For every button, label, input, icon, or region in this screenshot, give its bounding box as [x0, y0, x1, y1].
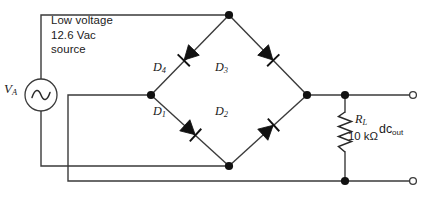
source-description-line3: source — [51, 42, 113, 57]
wire-bridge-left-to-bottom-rail — [68, 95, 345, 181]
diode-label-d1-name: D — [153, 104, 162, 118]
junction-dot-bridge-top — [225, 11, 233, 19]
diode-label-d2: D2 — [215, 104, 228, 121]
junction-dot-bridge-left — [147, 91, 155, 99]
circuit-diagram: Low voltage 12.6 Vac source VA D4 D3 D1 … — [0, 0, 426, 211]
source-label-subscript: A — [12, 88, 17, 97]
wire-source-bottom-to-bridge-bottom — [41, 111, 229, 166]
output-terminal-negative[interactable] — [410, 178, 417, 185]
diode-label-d3-subscript: 3 — [224, 66, 228, 75]
diode-label-d1-subscript: 1 — [162, 110, 166, 119]
source-description-line2: 12.6 Vac — [51, 28, 113, 43]
output-terminal-positive[interactable] — [410, 92, 417, 99]
diode-label-d2-name: D — [215, 104, 224, 118]
diode-label-d3-name: D — [215, 60, 224, 74]
load-resistor-label: RL 10 kΩ — [348, 112, 378, 143]
load-resistor-value: 10 kΩ — [348, 129, 378, 144]
diode-label-d4-name: D — [153, 60, 162, 74]
load-resistor-symbol-text: RL — [355, 112, 378, 129]
output-label-text: dc — [379, 122, 392, 136]
diode-label-d3: D3 — [215, 60, 228, 77]
source-label-symbol: V — [4, 81, 12, 96]
load-resistor-subscript: L — [362, 118, 367, 127]
output-label: dcout — [379, 122, 403, 138]
junction-dot-resistor-top — [341, 91, 349, 99]
diode-label-d4: D4 — [153, 60, 166, 77]
source-description-line1: Low voltage — [51, 13, 113, 28]
diode-label-d2-subscript: 2 — [224, 110, 228, 119]
diode-label-d1: D1 — [153, 104, 166, 121]
junction-dot-bridge-bottom — [225, 162, 233, 170]
output-label-subscript: out — [392, 128, 403, 137]
junction-dot-bridge-right — [303, 91, 311, 99]
source-description: Low voltage 12.6 Vac source — [51, 13, 113, 57]
junction-dot-resistor-bottom — [341, 177, 349, 185]
source-label: VA — [4, 81, 17, 99]
diode-label-d4-subscript: 4 — [162, 66, 166, 75]
